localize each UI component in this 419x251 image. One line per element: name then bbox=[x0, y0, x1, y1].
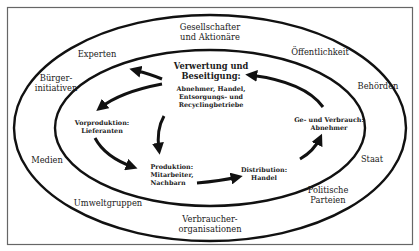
label-oeffentlichkeit: Öffentlichkeit bbox=[291, 48, 349, 58]
center-title: Verwertung und Beseitigung: bbox=[174, 61, 249, 82]
label-umweltgruppen: Umweltgruppen bbox=[74, 199, 142, 209]
label-gesellschafter: Gesellschafter und Aktionäre bbox=[180, 23, 241, 43]
stage-vorproduktion: Vorproduktion: Lieferanten bbox=[75, 119, 129, 135]
stage-verbrauch: Ge- und Verbrauch: Abnehmer bbox=[294, 116, 364, 132]
arrow-center-to-experten bbox=[134, 70, 162, 79]
label-verbraucherorganisationen: Verbraucher- organisationen bbox=[178, 215, 241, 235]
stakeholder-lifecycle-diagram: Gesellschafter und Aktionäre Experten Öf… bbox=[0, 0, 419, 251]
arrow-center-to-vorproduktion bbox=[100, 84, 162, 108]
arrow-verbrauch-to-center bbox=[250, 75, 323, 107]
label-staat: Staat bbox=[361, 155, 383, 165]
label-behoerden: Behörden bbox=[358, 82, 399, 92]
stage-distribution: Distribution: Handel bbox=[241, 166, 287, 182]
center-subtitle: Abnehmer, Handel, Entsorgungs- und Recyc… bbox=[174, 85, 249, 109]
label-medien: Medien bbox=[31, 156, 63, 166]
arrow-distribution-to-verbrauch bbox=[300, 138, 320, 159]
center-verwertung-beseitigung: Verwertung und Beseitigung: Abnehmer, Ha… bbox=[174, 61, 249, 109]
label-politische-parteien: Politische Parteien bbox=[308, 186, 349, 206]
label-buergerinitiativen: Bürger- initiativen bbox=[35, 74, 78, 94]
label-experten: Experten bbox=[78, 50, 117, 60]
arrow-produktion-to-distribution bbox=[197, 177, 238, 183]
arrow-center-to-produktion bbox=[158, 116, 164, 150]
stage-produktion: Produktion: Mitarbeiter, Nachbarn bbox=[150, 163, 193, 187]
arrow-vorproduktion-to-produktion bbox=[95, 138, 133, 167]
